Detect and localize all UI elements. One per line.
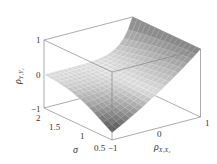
- z-axis-label: ρY₁Y₂: [12, 68, 24, 85]
- sigma-tick-1-5: 1.5: [49, 122, 61, 132]
- surface-plot: 1 0 −1 ρY₁Y₂ 2 1.5 1 0.5 σ −1 0 1 ρX₁X₂: [0, 0, 217, 164]
- rho-tick-0: 0: [157, 129, 162, 139]
- sigma-tick-2: 2: [36, 113, 41, 123]
- surface-mesh: [44, 17, 201, 133]
- sigma-tick-0-5: 0.5: [94, 143, 106, 153]
- svg-text:ρY₁Y₂: ρY₁Y₂: [12, 68, 24, 85]
- rho-axis-label: ρX₁X₂: [153, 141, 170, 153]
- z-tick-0: 0: [36, 70, 41, 80]
- sigma-axis-label: σ: [73, 144, 79, 155]
- rho-tick-1: 1: [205, 118, 210, 128]
- sigma-tick-1: 1: [80, 131, 85, 141]
- rho-tick-neg1: −1: [108, 143, 118, 153]
- z-tick-1: 1: [36, 35, 41, 45]
